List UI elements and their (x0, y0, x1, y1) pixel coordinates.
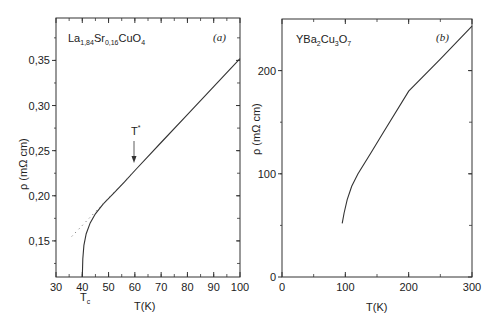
data-series-line (82, 59, 240, 277)
y-tick-label: 0 (270, 271, 276, 283)
panel-a-title: La1,84Sr0,16CuO4 (68, 32, 145, 46)
tstar-arrowhead-icon (132, 156, 137, 163)
panel-b-ylabel: ρ (mΩ cm) (250, 103, 262, 155)
x-tick-label: 200 (399, 281, 417, 293)
panel-b-tag: (b) (436, 31, 449, 44)
y-tick-label: 0,20 (29, 190, 50, 202)
y-tick-label: 0,25 (29, 145, 50, 157)
x-tick-label: 70 (155, 281, 167, 293)
tstar-label: T* (131, 124, 141, 137)
y-tick-label: 0,15 (29, 235, 50, 247)
x-tick-label: 30 (50, 281, 62, 293)
chart-figure: 304050607080901000,150,200,250,300,35 La… (0, 0, 496, 332)
x-tick-label: 300 (463, 281, 481, 293)
panel-b-title: YBa2Cu3O7 (296, 33, 351, 47)
panel-a-ylabel: ρ (mΩ cm) (17, 138, 29, 190)
y-tick-label: 200 (258, 65, 276, 77)
x-tick-label: 0 (279, 281, 285, 293)
x-tick-label: 60 (129, 281, 141, 293)
x-tick-label: 80 (181, 281, 193, 293)
panel-a-ticks: 304050607080901000,150,200,250,300,35 (29, 18, 250, 293)
x-tick-label: 100 (231, 281, 249, 293)
panel-b: 01002003000100200 YBa2Cu3O7 (b) T(K) ρ (… (250, 19, 481, 313)
y-tick-label: 0,30 (29, 100, 50, 112)
y-tick-label: 100 (258, 168, 276, 180)
data-series-line (342, 26, 472, 223)
x-tick-label: 100 (336, 281, 354, 293)
x-tick-label: 90 (208, 281, 220, 293)
x-tick-label: 50 (102, 281, 114, 293)
panel-a-xlabel: T(K) (134, 300, 155, 312)
y-tick-label: 0,35 (29, 54, 50, 66)
panel-a-tag: (a) (213, 31, 226, 44)
panel-a: 304050607080901000,150,200,250,300,35 La… (17, 18, 249, 312)
panel-a-frame (56, 18, 240, 277)
panel-b-xlabel: T(K) (366, 301, 387, 313)
panel-b-series (342, 26, 472, 223)
panel-a-series (72, 59, 240, 277)
tc-label: Tc (80, 291, 91, 305)
panel-b-frame (282, 19, 472, 277)
